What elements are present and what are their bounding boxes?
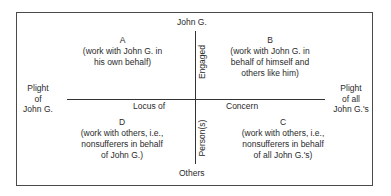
quadrant-c: C (work with others, i.e., nonsufferers … <box>218 117 348 161</box>
axis-label-bottom: Others <box>179 168 205 179</box>
quadrant-b: B (work with John G. in behalf of himsel… <box>210 35 330 79</box>
quadrant-text-line: (work with others, i.e., <box>57 128 187 139</box>
axis-label-left: Plight of John G. <box>18 83 58 115</box>
left-label-line: John G. <box>18 104 58 115</box>
quadrant-text-line: behalf of himself and <box>210 57 330 68</box>
quadrant-letter: A <box>60 35 185 46</box>
quadrant-letter: C <box>218 117 348 128</box>
right-label-line: of all <box>328 94 374 105</box>
quadrant-d: D (work with others, i.e., nonsufferers … <box>57 117 187 161</box>
quadrant-text-line: (work with John G. in <box>210 46 330 57</box>
quadrant-text-line: nonsufferers in behalf <box>57 139 187 150</box>
vertical-axis-line <box>195 31 196 164</box>
quadrant-text-line: his own behalf) <box>60 57 185 68</box>
quadrant-text-line: others like him) <box>210 68 330 79</box>
quadrant-text-line: of John G.) <box>57 150 187 161</box>
left-label-line: Plight <box>18 83 58 94</box>
quadrant-text-line: (work with others, i.e., <box>218 128 348 139</box>
right-label-line: Plight <box>328 83 374 94</box>
vertical-axis-label-lower: Person(s) <box>197 118 207 158</box>
horizontal-axis-label-left: Locus of <box>133 101 165 112</box>
left-label-line: of <box>18 94 58 105</box>
quadrant-letter: B <box>210 35 330 46</box>
quadrant-text-line: nonsufferers in behalf <box>218 139 348 150</box>
right-label-line: John G.'s <box>328 104 374 115</box>
axis-label-right: Plight of all John G.'s <box>328 83 374 115</box>
horizontal-axis-label-right: Concern <box>226 101 258 112</box>
quadrant-letter: D <box>57 117 187 128</box>
vertical-axis-label-upper: Engaged <box>197 44 207 80</box>
axis-label-top: John G. <box>177 17 207 28</box>
horizontal-axis-line <box>67 99 325 100</box>
quadrant-text-line: of all John G.'s) <box>218 150 348 161</box>
quadrant-text-line: (work with John G. in <box>60 46 185 57</box>
quadrant-a: A (work with John G. in his own behalf) <box>60 35 185 68</box>
